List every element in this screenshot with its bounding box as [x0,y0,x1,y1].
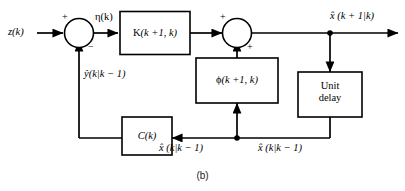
block-output-matrix-c-label: C(k) [122,130,172,142]
junction-dot-output [327,30,333,36]
label-predicted-output: ŷ(k|k − 1) [84,69,125,80]
block-unit-delay-label: Unit delay [298,80,362,104]
sign-summer-right-plus-top: + [220,12,226,22]
label-state-prediction-left: x̂ (k|k − 1) [159,143,203,154]
block-gain-k-label-tail: (k +1, k) [141,27,178,38]
figure-caption: (b) [0,170,405,181]
label-innovation: η(k) [95,12,113,23]
label-innovation-text: η(k) [95,11,113,22]
figure-canvas: K(k +1, k) ϕ(k +1, k) C(k) Unit delay z(… [0,0,405,191]
block-transition-phi-label-tail: (k +1, k) [222,74,259,85]
sign-summer-left-plus: + [62,12,68,22]
junction-dot-bottom [234,135,240,141]
block-gain-k-label: K(k +1, k) [120,27,190,39]
label-state-prediction-right: x̂ (k|k − 1) [258,143,302,154]
block-unit-delay-label-line2: delay [319,92,342,103]
block-unit-delay-label-line1: Unit [321,80,340,91]
label-input-measurement: z(k) [8,27,24,38]
label-state-prediction-next: x̂ (k + 1|k) [330,11,374,22]
sign-summer-left-minus: − [88,42,94,52]
block-gain-k-label-head: K [133,27,141,38]
sign-summer-right-plus-bottom: + [247,42,253,52]
block-transition-phi-label: ϕ(k +1, k) [196,74,278,86]
